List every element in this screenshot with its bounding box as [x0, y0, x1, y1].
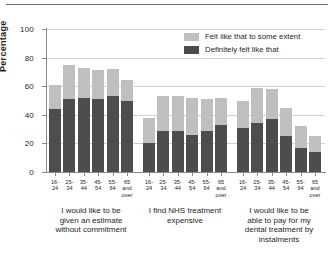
x-tick-mark — [207, 172, 208, 176]
legend-swatch-light — [184, 33, 199, 41]
bar-stack — [215, 98, 227, 172]
x-tick-mark — [127, 172, 128, 176]
bar-stack — [78, 68, 90, 172]
bar-stack — [280, 108, 292, 172]
x-tick-mark — [243, 172, 244, 176]
bar-segment-some-extent — [186, 98, 198, 135]
chart-legend: Felt like that to some extentDefinitely … — [184, 32, 300, 58]
x-tick-mark — [286, 172, 287, 176]
bar-segment-some-extent — [157, 96, 169, 130]
bar-segment-some-extent — [63, 65, 75, 99]
x-tick-mark — [301, 172, 302, 176]
y-axis-title: Percentage — [0, 20, 8, 72]
x-tick-mark — [149, 172, 150, 176]
bar-stack — [266, 89, 278, 172]
group-caption: I would like to beable to pay for mydent… — [226, 206, 332, 244]
legend-label: Felt like that to some extent — [205, 32, 300, 41]
bar-segment-some-extent — [143, 118, 155, 144]
x-tick-label: 65andover — [304, 179, 326, 198]
bar-segment-definitely — [121, 101, 133, 173]
bar-segment-definitely — [186, 135, 198, 172]
group-caption-line: without commitment — [38, 225, 144, 235]
bar-stack — [63, 65, 75, 172]
x-tick-label-line: over — [210, 192, 232, 198]
group-caption: I would like to begiven an estimatewitho… — [38, 206, 144, 235]
y-tick-label: 60 — [10, 82, 34, 91]
x-tick-label: 65andover — [210, 179, 232, 198]
x-tick-mark — [315, 172, 316, 176]
x-tick-mark — [178, 172, 179, 176]
bar-segment-definitely — [49, 109, 61, 172]
group-caption-line: expensive — [132, 216, 238, 226]
bar-stack — [143, 118, 155, 172]
bar-segment-definitely — [201, 131, 213, 172]
x-tick-mark — [163, 172, 164, 176]
bar-segment-definitely — [309, 152, 321, 172]
group-caption-line: I would like to be — [226, 206, 332, 216]
bar-stack — [295, 126, 307, 172]
bar-segment-some-extent — [266, 89, 278, 119]
bar-segment-definitely — [237, 128, 249, 172]
bar-segment-definitely — [92, 99, 104, 172]
bar-segment-definitely — [251, 123, 263, 172]
x-tick-mark — [221, 172, 222, 176]
group-caption: I find NHS treatmentexpensive — [132, 206, 238, 225]
bar-segment-definitely — [63, 99, 75, 172]
x-tick-mark — [69, 172, 70, 176]
legend-item: Felt like that to some extent — [184, 32, 300, 41]
bar-stack — [172, 96, 184, 172]
bar-stack — [201, 99, 213, 172]
bar-segment-some-extent — [237, 101, 249, 128]
header-divider — [6, 4, 328, 5]
y-tick-label: 20 — [10, 139, 34, 148]
bar-segment-definitely — [157, 131, 169, 172]
x-tick-mark — [84, 172, 85, 176]
bar-stack — [186, 98, 198, 172]
group-caption-line: I find NHS treatment — [132, 206, 238, 216]
bar-segment-some-extent — [215, 98, 227, 125]
legend-swatch-dark — [184, 46, 199, 54]
x-tick-mark — [113, 172, 114, 176]
chart-container: Percentage 020406080100 16-2425-3435-444… — [0, 0, 334, 274]
x-tick-label-line: over — [304, 192, 326, 198]
bar-segment-some-extent — [309, 136, 321, 152]
x-tick-mark — [192, 172, 193, 176]
x-axis-line — [46, 172, 326, 173]
bar-segment-some-extent — [201, 99, 213, 130]
bar-segment-some-extent — [121, 80, 133, 100]
y-tick-label: 40 — [10, 111, 34, 120]
x-tick-label-line: over — [116, 192, 138, 198]
bar-segment-definitely — [78, 98, 90, 172]
bar-segment-some-extent — [172, 96, 184, 130]
group-caption-line: I would like to be — [38, 206, 144, 216]
bar-segment-definitely — [280, 136, 292, 172]
x-tick-mark — [257, 172, 258, 176]
bar-segment-some-extent — [251, 88, 263, 124]
y-tick-label: 100 — [10, 25, 34, 34]
group-caption-line: instalments — [226, 235, 332, 245]
bar-segment-some-extent — [49, 85, 61, 109]
legend-label: Definitely felt like that — [205, 45, 279, 54]
legend-item: Definitely felt like that — [184, 45, 300, 54]
bar-segment-some-extent — [295, 126, 307, 147]
bar-segment-definitely — [107, 96, 119, 172]
y-tick-label: 0 — [10, 168, 34, 177]
x-tick-label: 65andover — [116, 179, 138, 198]
bar-segment-definitely — [215, 125, 227, 172]
bar-segment-definitely — [143, 143, 155, 172]
bar-stack — [237, 101, 249, 173]
bar-segment-definitely — [295, 148, 307, 172]
bar-segment-some-extent — [92, 70, 104, 99]
group-caption-line: able to pay for my — [226, 216, 332, 226]
bar-segment-some-extent — [78, 68, 90, 98]
bar-stack — [92, 70, 104, 172]
bar-stack — [107, 69, 119, 172]
bar-segment-definitely — [172, 131, 184, 172]
bar-stack — [157, 96, 169, 172]
bar-stack — [121, 80, 133, 172]
x-tick-mark — [272, 172, 273, 176]
y-tick-label: 80 — [10, 54, 34, 63]
x-tick-mark — [55, 172, 56, 176]
bar-stack — [309, 136, 321, 172]
group-caption-line: dental treatment by — [226, 225, 332, 235]
